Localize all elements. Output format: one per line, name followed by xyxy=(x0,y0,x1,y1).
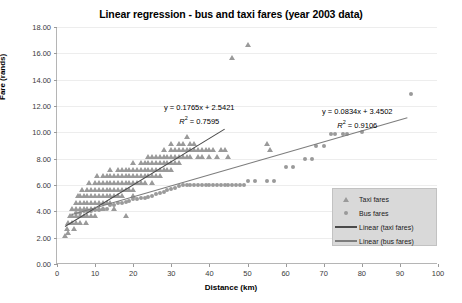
data-point-taxi xyxy=(222,147,228,152)
data-point-taxi xyxy=(225,154,231,159)
data-point-bus xyxy=(333,132,337,136)
data-point-taxi xyxy=(199,154,205,159)
x-tick-label: 50 xyxy=(233,269,263,278)
data-point-taxi xyxy=(214,154,220,159)
x-tick-label: 30 xyxy=(156,269,186,278)
y-tick-label: 6.00 xyxy=(0,181,51,190)
data-point-taxi xyxy=(267,147,273,152)
legend-label: Linear (taxi fares) xyxy=(359,224,413,231)
chart-legend: Taxi faresBus faresLinear (taxi fares)Li… xyxy=(332,188,437,246)
y-tick-mark xyxy=(54,238,57,239)
y-tick-mark xyxy=(54,106,57,107)
legend-item-linear-bus-fares[interactable]: Linear (bus fares) xyxy=(333,234,436,248)
x-axis-title: Distance (km) xyxy=(0,283,462,292)
y-tick-label: 18.00 xyxy=(0,23,51,32)
y-tick-mark xyxy=(54,80,57,81)
x-tick-mark xyxy=(95,264,96,267)
x-tick-mark xyxy=(400,264,401,267)
data-point-taxi xyxy=(119,193,125,198)
data-point-taxi xyxy=(157,173,163,178)
triangle-marker-icon xyxy=(333,197,359,202)
gridline xyxy=(57,159,437,160)
data-point-taxi xyxy=(83,220,89,225)
data-point-taxi xyxy=(71,226,77,231)
data-point-taxi xyxy=(123,213,129,218)
gridline xyxy=(57,27,437,28)
data-point-bus xyxy=(242,183,246,187)
taxi-equation: y = 0.1765x + 2.5421R2 = 0.7595 xyxy=(164,103,234,127)
data-point-taxi xyxy=(187,154,193,159)
data-point-taxi xyxy=(149,180,155,185)
data-point-taxi xyxy=(130,187,136,192)
x-tick-label: 0 xyxy=(42,269,72,278)
line-mid-icon xyxy=(333,240,359,242)
x-tick-mark xyxy=(324,264,325,267)
x-tick-label: 70 xyxy=(309,269,339,278)
data-point-taxi xyxy=(168,141,174,146)
data-point-taxi xyxy=(176,160,182,165)
bus-equation: y = 0.0834x + 3.4502R2 = 0.9106 xyxy=(322,107,392,131)
y-tick-label: 0.00 xyxy=(0,260,51,269)
x-tick-mark xyxy=(438,264,439,267)
bus-equation-line1: y = 0.0834x + 3.4502 xyxy=(322,107,392,117)
legend-label: Taxi fares xyxy=(359,196,389,203)
y-tick-label: 2.00 xyxy=(0,233,51,242)
x-tick-mark xyxy=(171,264,172,267)
data-point-taxi xyxy=(206,154,212,159)
data-point-bus xyxy=(303,157,307,161)
y-tick-mark xyxy=(54,132,57,133)
data-point-bus xyxy=(310,157,314,161)
x-tick-mark xyxy=(286,264,287,267)
data-point-taxi xyxy=(111,206,117,211)
data-point-bus xyxy=(265,179,269,183)
x-tick-label: 60 xyxy=(271,269,301,278)
x-tick-label: 20 xyxy=(118,269,148,278)
data-point-taxi xyxy=(107,167,113,172)
data-point-bus xyxy=(409,92,413,96)
x-tick-mark xyxy=(133,264,134,267)
legend-label: Linear (bus fares) xyxy=(359,238,414,245)
gridline xyxy=(57,132,437,133)
data-point-taxi xyxy=(264,141,270,146)
legend-item-taxi-fares[interactable]: Taxi fares xyxy=(333,192,436,206)
data-point-bus xyxy=(322,144,326,148)
chart-title: Linear regression - bus and taxi fares (… xyxy=(0,8,462,20)
y-tick-label: 14.00 xyxy=(0,75,51,84)
x-tick-mark xyxy=(248,264,249,267)
data-point-taxi xyxy=(142,180,148,185)
y-tick-mark xyxy=(54,185,57,186)
legend-label: Bus fares xyxy=(359,210,389,217)
y-tick-mark xyxy=(54,211,57,212)
data-point-bus xyxy=(284,165,288,169)
y-tick-label: 12.00 xyxy=(0,102,51,111)
y-tick-label: 10.00 xyxy=(0,128,51,137)
gridline xyxy=(57,53,437,54)
y-tick-mark xyxy=(54,27,57,28)
x-tick-label: 40 xyxy=(194,269,224,278)
x-tick-label: 100 xyxy=(423,269,453,278)
legend-item-linear-taxi-fares[interactable]: Linear (taxi fares) xyxy=(333,220,436,234)
data-point-taxi xyxy=(168,167,174,172)
data-point-taxi xyxy=(92,213,98,218)
y-tick-mark xyxy=(54,159,57,160)
data-point-bus xyxy=(253,179,257,183)
data-point-taxi xyxy=(130,160,136,165)
x-tick-mark xyxy=(362,264,363,267)
data-point-taxi xyxy=(210,147,216,152)
y-tick-label: 8.00 xyxy=(0,154,51,163)
data-point-taxi xyxy=(229,55,235,60)
x-tick-label: 90 xyxy=(385,269,415,278)
data-point-bus xyxy=(246,179,250,183)
x-tick-label: 80 xyxy=(347,269,377,278)
line-dark-icon xyxy=(333,226,359,228)
data-point-taxi xyxy=(245,42,251,47)
data-point-taxi xyxy=(180,141,186,146)
data-point-bus xyxy=(291,165,295,169)
y-tick-label: 16.00 xyxy=(0,49,51,58)
x-tick-label: 10 xyxy=(80,269,110,278)
diamond-marker-icon xyxy=(333,211,359,215)
legend-item-bus-fares[interactable]: Bus fares xyxy=(333,206,436,220)
y-tick-label: 4.00 xyxy=(0,207,51,216)
data-point-taxi xyxy=(161,147,167,152)
bus-equation-line2: R2 = 0.9106 xyxy=(322,117,392,131)
